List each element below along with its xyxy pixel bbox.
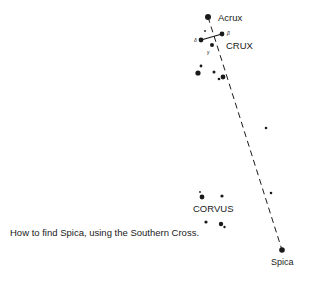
label-acrux: Acrux — [218, 12, 243, 23]
crux-crossbar — [201, 34, 222, 40]
star-spica — [279, 247, 285, 253]
field-stars — [195, 65, 272, 195]
star-beta-crucis — [220, 32, 225, 37]
label-crux: CRUX — [226, 40, 254, 51]
label-beta: β — [226, 30, 230, 36]
label-delta: δ — [194, 37, 197, 43]
pointer-line — [208, 17, 282, 250]
star-epsilon-crucis — [204, 30, 206, 32]
label-spica: Spica — [271, 257, 294, 267]
label-corvus: CORVUS — [193, 203, 233, 214]
star-delta-crucis — [199, 38, 204, 43]
star-acrux — [205, 14, 211, 20]
star-gamma-crucis — [210, 43, 214, 47]
label-gamma: γ — [207, 49, 210, 55]
star-chart: Acrux CRUX CORVUS Spica β δ γ — [0, 0, 309, 282]
figure-caption: How to find Spica, using the Southern Cr… — [10, 227, 199, 238]
